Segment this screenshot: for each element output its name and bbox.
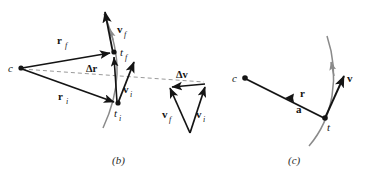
label-c-c: c <box>232 72 237 84</box>
label-point-t-f: t f <box>120 46 129 62</box>
point-t-f <box>111 49 116 54</box>
label-r-i-base: r <box>58 90 63 102</box>
label-vector-v: v <box>347 72 353 84</box>
label-vector-r-i: r i <box>58 90 68 106</box>
point-c-b <box>18 65 23 70</box>
caption-panel-b: (b) <box>112 154 125 167</box>
label-v-f-sub: f <box>124 30 128 39</box>
label-vector-v-i: v i <box>123 83 132 99</box>
label-t-i-base: t <box>114 107 118 119</box>
label-delta-r: Δr <box>86 63 98 74</box>
figure-canvas: c r f r i Δr v f v i t f t <box>0 0 368 176</box>
point-t <box>322 115 328 121</box>
label-v-i-base: v <box>123 83 129 95</box>
label-point-t-i: t i <box>114 107 121 123</box>
label-vector-v-f: v f <box>117 23 128 39</box>
label-v-i-tri-base: v <box>196 108 202 120</box>
label-v-i-triangle: v i <box>196 108 205 124</box>
label-c-b: c <box>8 62 13 74</box>
label-r-i-sub: i <box>66 97 68 106</box>
vector-v-f <box>105 12 113 53</box>
point-t-i <box>115 100 120 105</box>
label-v-f-base: v <box>117 23 123 35</box>
label-r-f-base: r <box>57 34 62 46</box>
label-vector-r-f: r f <box>57 34 69 50</box>
label-point-t: t <box>327 121 331 133</box>
label-v-i-tri-sub: i <box>203 115 205 124</box>
label-t-f-base: t <box>120 46 124 58</box>
vector-r-line <box>246 79 324 118</box>
label-t-i-sub: i <box>119 114 121 123</box>
label-r-f-sub: f <box>65 41 69 50</box>
point-c-c <box>242 75 248 81</box>
label-delta-v: Δv <box>176 69 189 80</box>
label-t-f-sub: f <box>125 53 129 62</box>
label-vector-r: r <box>300 87 305 99</box>
vector-v-f-triangle <box>170 88 190 133</box>
label-v-f-tri-base: v <box>162 108 168 120</box>
label-v-f-tri-sub: f <box>169 115 173 124</box>
label-v-f-triangle: v f <box>162 108 173 124</box>
caption-panel-c: (c) <box>288 154 301 167</box>
label-v-i-sub: i <box>130 90 132 99</box>
kinematics-vector-diagram: c r f r i Δr v f v i t f t <box>0 0 368 176</box>
vector-delta-v <box>172 84 205 87</box>
label-vector-a: a <box>296 103 302 115</box>
vector-v <box>325 76 344 118</box>
